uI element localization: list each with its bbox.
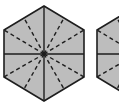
hexagon-diagram [0,0,119,104]
hexagon-1 [4,6,84,101]
hexagon-2 [97,6,119,101]
center-point [42,52,46,56]
